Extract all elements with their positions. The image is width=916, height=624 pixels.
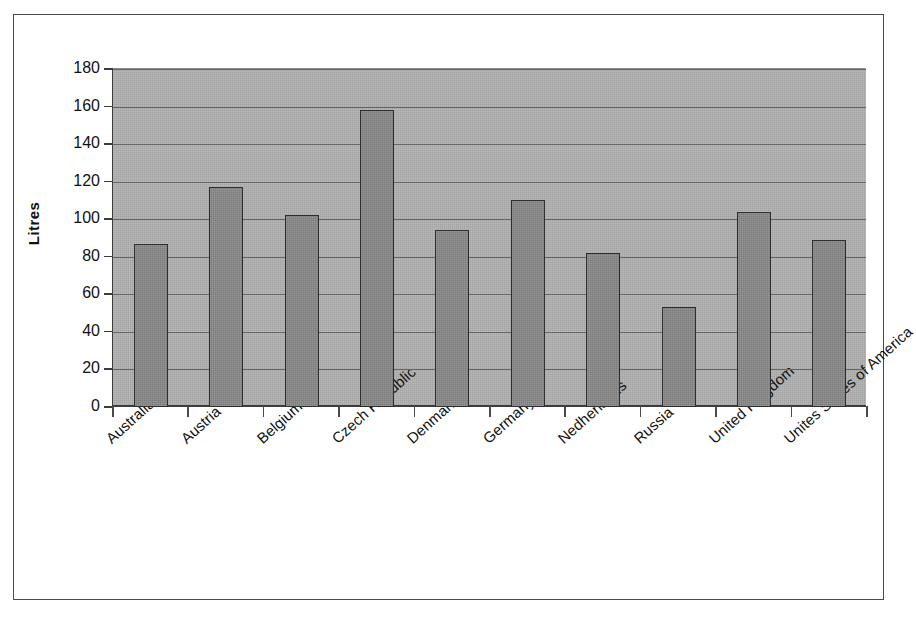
y-tick-label-0: 0 [40,397,100,415]
y-axis-tick-labels: 180160140120100806040200 [28,0,100,624]
x-tick-mark [414,406,416,417]
y-tick-mark-60 [104,293,113,295]
bar [737,212,771,407]
x-tick-mark [489,406,491,417]
gridline-120 [113,182,866,183]
y-tick-mark-180 [104,68,113,70]
y-tick-label-180: 180 [40,59,100,77]
y-tick-mark-80 [104,256,113,258]
y-tick-mark-20 [104,368,113,370]
bar [360,110,394,407]
gridline-160 [113,107,866,108]
y-tick-mark-140 [104,143,113,145]
bar [586,253,620,407]
gridline-180 [113,69,866,70]
bar [209,187,243,407]
gridline-140 [113,144,866,145]
y-tick-label-60: 60 [40,284,100,302]
y-tick-label-80: 80 [40,247,100,265]
y-tick-label-20: 20 [40,359,100,377]
x-tick-mark [112,406,114,417]
y-tick-label-100: 100 [40,209,100,227]
y-tick-mark-100 [104,218,113,220]
y-tick-label-40: 40 [40,322,100,340]
y-tick-label-140: 140 [40,134,100,152]
x-tick-mark [187,406,189,417]
x-tick-mark [263,406,265,417]
x-tick-mark [640,406,642,417]
bar [285,215,319,407]
x-tick-mark [564,406,566,417]
bar [662,307,696,407]
x-tick-mark [866,406,868,417]
x-tick-mark [338,406,340,417]
y-tick-label-120: 120 [40,172,100,190]
y-tick-mark-120 [104,181,113,183]
y-tick-label-160: 160 [40,97,100,115]
x-tick-mark [715,406,717,417]
plot-area [112,68,866,406]
y-tick-mark-160 [104,106,113,108]
bar [511,200,545,407]
bar [435,230,469,407]
bar [134,244,168,407]
bar [812,240,846,407]
y-tick-mark-40 [104,331,113,333]
x-tick-mark [791,406,793,417]
